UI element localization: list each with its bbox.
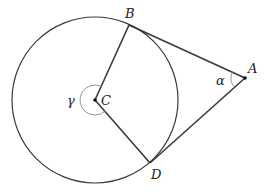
label-alpha: α [216,73,225,88]
radius-cb [95,25,129,100]
label-d: D [150,167,162,182]
point-a-dot [243,76,247,80]
label-c: C [101,93,111,108]
tangent-circle-diagram: B A C D γ α [0,0,265,195]
tangent-ad [150,78,245,163]
angle-alpha-arc [231,72,235,87]
radius-cd [95,100,150,163]
label-b: B [124,6,135,21]
label-gamma: γ [67,93,75,108]
label-a: A [247,61,257,76]
point-c-dot [93,98,97,102]
tangent-ab [129,25,245,78]
